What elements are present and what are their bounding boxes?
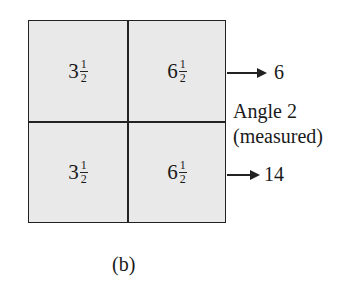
cell-whole: 6 bbox=[167, 160, 178, 185]
measurement-grid: 3 12 6 12 3 12 6 12 bbox=[28, 20, 226, 223]
arrow-right-icon bbox=[227, 72, 265, 74]
cell-top-left: 3 12 bbox=[29, 21, 127, 121]
numerator: 1 bbox=[81, 59, 87, 70]
cell-bottom-right: 6 12 bbox=[128, 122, 226, 222]
cell-whole: 3 bbox=[68, 59, 79, 84]
figure-caption: (b) bbox=[112, 253, 135, 276]
cell-bottom-left: 3 12 bbox=[29, 122, 127, 222]
numerator: 1 bbox=[180, 59, 186, 70]
annotation-line1: Angle 2 bbox=[233, 100, 297, 123]
fraction: 12 bbox=[179, 59, 187, 84]
denominator: 2 bbox=[180, 174, 186, 185]
cell-whole: 6 bbox=[167, 59, 178, 84]
top-arrow-value: 6 bbox=[274, 61, 284, 84]
bottom-arrow-value: 14 bbox=[264, 163, 284, 186]
arrow-right-icon bbox=[227, 174, 258, 176]
denominator: 2 bbox=[81, 73, 87, 84]
cell-top-right: 6 12 bbox=[128, 21, 226, 121]
cell-whole: 3 bbox=[68, 160, 79, 185]
numerator: 1 bbox=[180, 160, 186, 171]
denominator: 2 bbox=[180, 73, 186, 84]
fraction: 12 bbox=[80, 59, 88, 84]
numerator: 1 bbox=[81, 160, 87, 171]
fraction: 12 bbox=[179, 160, 187, 185]
fraction: 12 bbox=[80, 160, 88, 185]
denominator: 2 bbox=[81, 174, 87, 185]
annotation-line2: (measured) bbox=[233, 125, 323, 148]
